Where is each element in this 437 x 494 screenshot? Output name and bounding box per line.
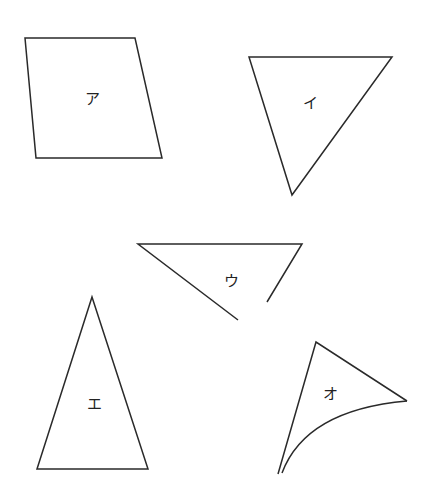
shape-o: オ [278,342,407,474]
shapes-figure: ア イ ウ エ オ [0,0,437,494]
curved-triangle-arc-side [282,401,407,473]
curved-triangle-straight-sides [278,342,407,474]
shape-e-label: エ [87,395,102,413]
shape-o-label: オ [323,385,338,403]
shape-u: ウ [138,244,302,320]
open-triangle-outline [138,244,302,320]
shape-u-label: ウ [224,272,239,290]
shape-i-label: イ [303,94,318,112]
shape-a-label: ア [85,90,100,108]
shape-i: イ [249,57,392,195]
isosceles-triangle-outline [37,297,148,469]
shape-a: ア [25,38,162,158]
triangle-outline [249,57,392,195]
shape-e: エ [37,297,148,469]
